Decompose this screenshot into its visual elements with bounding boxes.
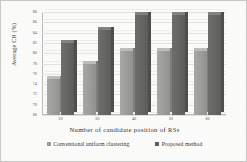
y-axis-tick: 74 (33, 82, 37, 86)
bar-front-face (208, 15, 221, 115)
x-axis-tick: 60 (206, 117, 210, 121)
bar-proposed-method (61, 43, 74, 115)
y-axis-tick: 84 (33, 31, 37, 35)
bar-side-face (74, 40, 77, 112)
bar-group (152, 12, 189, 115)
bar-conventional-uniform-clustering (194, 51, 207, 115)
plot-area (42, 12, 226, 115)
bar-front-face (194, 51, 207, 115)
chart-legend: Conventional uniform clusteringProposed … (1, 141, 247, 147)
y-axis-tick: 88 (33, 10, 37, 14)
bar-group (189, 12, 226, 115)
bar-conventional-uniform-clustering (120, 51, 133, 115)
x-axis-tick: 20 (58, 117, 62, 121)
bar-front-face (61, 43, 74, 115)
bar-proposed-method (98, 30, 111, 115)
bar-front-face (98, 30, 111, 115)
grid-line-depth (45, 9, 226, 10)
bar-group (79, 12, 116, 115)
bar-conventional-uniform-clustering (83, 64, 96, 116)
y-axis-tick: 68 (33, 113, 37, 117)
y-axis-tick: 72 (33, 92, 37, 96)
legend-swatch-icon (155, 142, 159, 146)
x-axis-tick-labels: 2030405060 (42, 117, 226, 125)
bar-front-face (83, 64, 96, 116)
x-axis-title: Number of candidate position of RSs (1, 126, 247, 133)
bar-front-face (172, 15, 185, 115)
bar-conventional-uniform-clustering (47, 79, 60, 115)
y-axis-tick: 76 (33, 72, 37, 76)
bar-group (42, 12, 79, 115)
x-axis-tick: 40 (132, 117, 136, 121)
bar-side-face (185, 12, 188, 112)
bar-proposed-method (172, 15, 185, 115)
bar-front-face (135, 15, 148, 115)
bar-proposed-method (208, 15, 221, 115)
bar-side-face (148, 12, 151, 112)
y-axis-tick: 70 (33, 103, 37, 107)
legend-label: Conventional uniform clustering (53, 141, 129, 147)
bar-proposed-method (135, 15, 148, 115)
x-axis-tick: 50 (169, 117, 173, 121)
bar-front-face (47, 79, 60, 115)
y-axis-tick: 86 (33, 20, 37, 24)
chart-figure: Average CR (%) 8886848280787674727068 20… (0, 0, 247, 162)
bar-side-face (221, 12, 224, 112)
legend-item: Conventional uniform clustering (47, 141, 130, 147)
y-axis-tick-labels: 8886848280787674727068 (1, 12, 40, 115)
bar-front-face (120, 51, 133, 115)
legend-label: Proposed method (162, 141, 203, 147)
y-axis-tick: 80 (33, 51, 37, 55)
y-axis-tick: 78 (33, 61, 37, 65)
bar-front-face (157, 51, 170, 115)
bar-conventional-uniform-clustering (157, 51, 170, 115)
bar-side-face (111, 27, 114, 112)
legend-item: Proposed method (155, 141, 202, 147)
x-axis-tick: 30 (95, 117, 99, 121)
bar-group (116, 12, 153, 115)
y-axis-tick: 82 (33, 41, 37, 45)
legend-swatch-icon (47, 142, 51, 146)
